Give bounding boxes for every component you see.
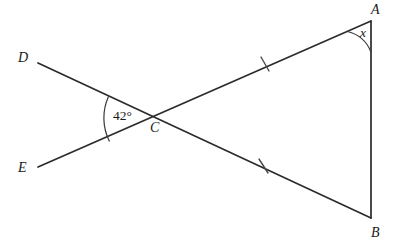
point-label-b: B [371,226,380,240]
geometry-diagram: A B C D E 42° x [0,0,405,245]
angle-label-42-degrees: 42° [113,109,132,123]
segment-d-to-b [38,63,371,218]
point-label-c: C [150,121,159,135]
point-label-d: D [18,51,28,65]
angle-label-x: x [360,26,366,40]
point-label-e: E [18,161,27,175]
angle-arc-c [104,97,110,142]
geometry-canvas [0,0,405,245]
point-label-a: A [371,3,380,17]
segment-e-to-a [38,21,371,167]
